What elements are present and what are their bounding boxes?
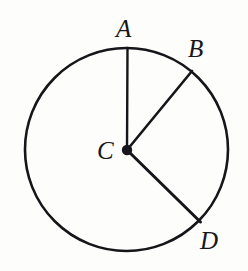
point-label-a: A [116, 16, 131, 41]
radius-segment-cd [127, 150, 201, 222]
radius-segment-ca [127, 48, 128, 150]
center-point-marker [122, 145, 132, 155]
point-label-b: B [188, 36, 203, 61]
point-label-d: D [200, 228, 218, 253]
radius-segment-cb [127, 71, 192, 150]
point-label-c: C [97, 138, 114, 163]
geometry-figure: A B C D [0, 0, 248, 271]
